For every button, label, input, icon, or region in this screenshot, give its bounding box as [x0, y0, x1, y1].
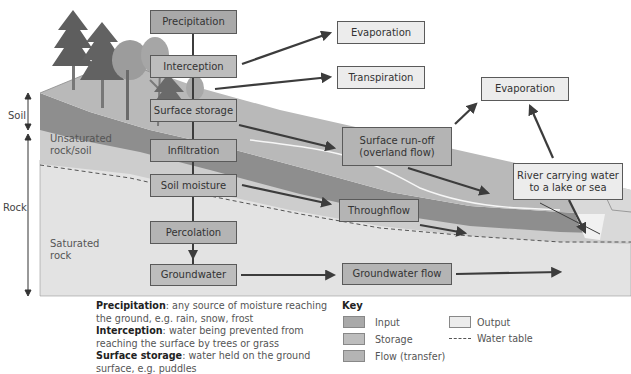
surface-storage-box: Surface storage: [150, 99, 237, 122]
output-swatch: [449, 316, 471, 328]
flow-swatch: [343, 350, 365, 362]
saturated-layer-label: Saturated rock: [50, 238, 99, 262]
rock-depth-label: Rock: [3, 202, 27, 213]
legend-title: Key: [342, 300, 363, 311]
soil-moisture-box: Soil moisture: [150, 174, 237, 197]
legend-item-input: Input: [343, 316, 400, 328]
definitions-text: Precipitation: any source of moisture re…: [96, 300, 336, 374]
interception-box: Interception: [150, 55, 237, 78]
legend: Key Input Storage Flow (transfer) Output…: [341, 300, 601, 370]
definition-interception: Interception: water being prevented from…: [96, 325, 336, 350]
surface-runoff-box: Surface run-off (overland flow): [342, 127, 452, 166]
legend-item-flow: Flow (transfer): [343, 350, 445, 362]
input-swatch: [343, 316, 365, 328]
throughflow-box: Throughflow: [339, 199, 419, 222]
unsaturated-layer-label: Unsaturated rock/soil: [50, 133, 112, 157]
definition-precipitation: Precipitation: any source of moisture re…: [96, 300, 336, 325]
percolation-box: Percolation: [150, 221, 237, 244]
precipitation-box: Precipitation: [150, 10, 237, 34]
infiltration-box: Infiltration: [150, 139, 237, 162]
evaporation-output-box-2: Evaporation: [481, 77, 569, 101]
transpiration-output-box: Transpiration: [337, 66, 425, 89]
groundwater-flow-box: Groundwater flow: [342, 263, 452, 285]
water-table-dash-sample: [449, 338, 471, 339]
hydrological-cycle-diagram: Soil Rock Unsaturated rock/soil Saturate…: [0, 0, 631, 300]
depth-scale: [25, 93, 31, 296]
definition-surface-storage: Surface storage: water held on the groun…: [96, 350, 336, 374]
legend-item-water-table: Water table: [449, 333, 533, 344]
river-output-box: River carrying water to a lake or sea: [513, 163, 623, 200]
groundwater-box: Groundwater: [150, 264, 237, 286]
evaporation-output-box-1: Evaporation: [337, 21, 425, 44]
legend-item-storage: Storage: [343, 333, 413, 345]
legend-item-output: Output: [449, 316, 510, 328]
soil-depth-label: Soil: [8, 110, 26, 121]
storage-swatch: [343, 333, 365, 345]
